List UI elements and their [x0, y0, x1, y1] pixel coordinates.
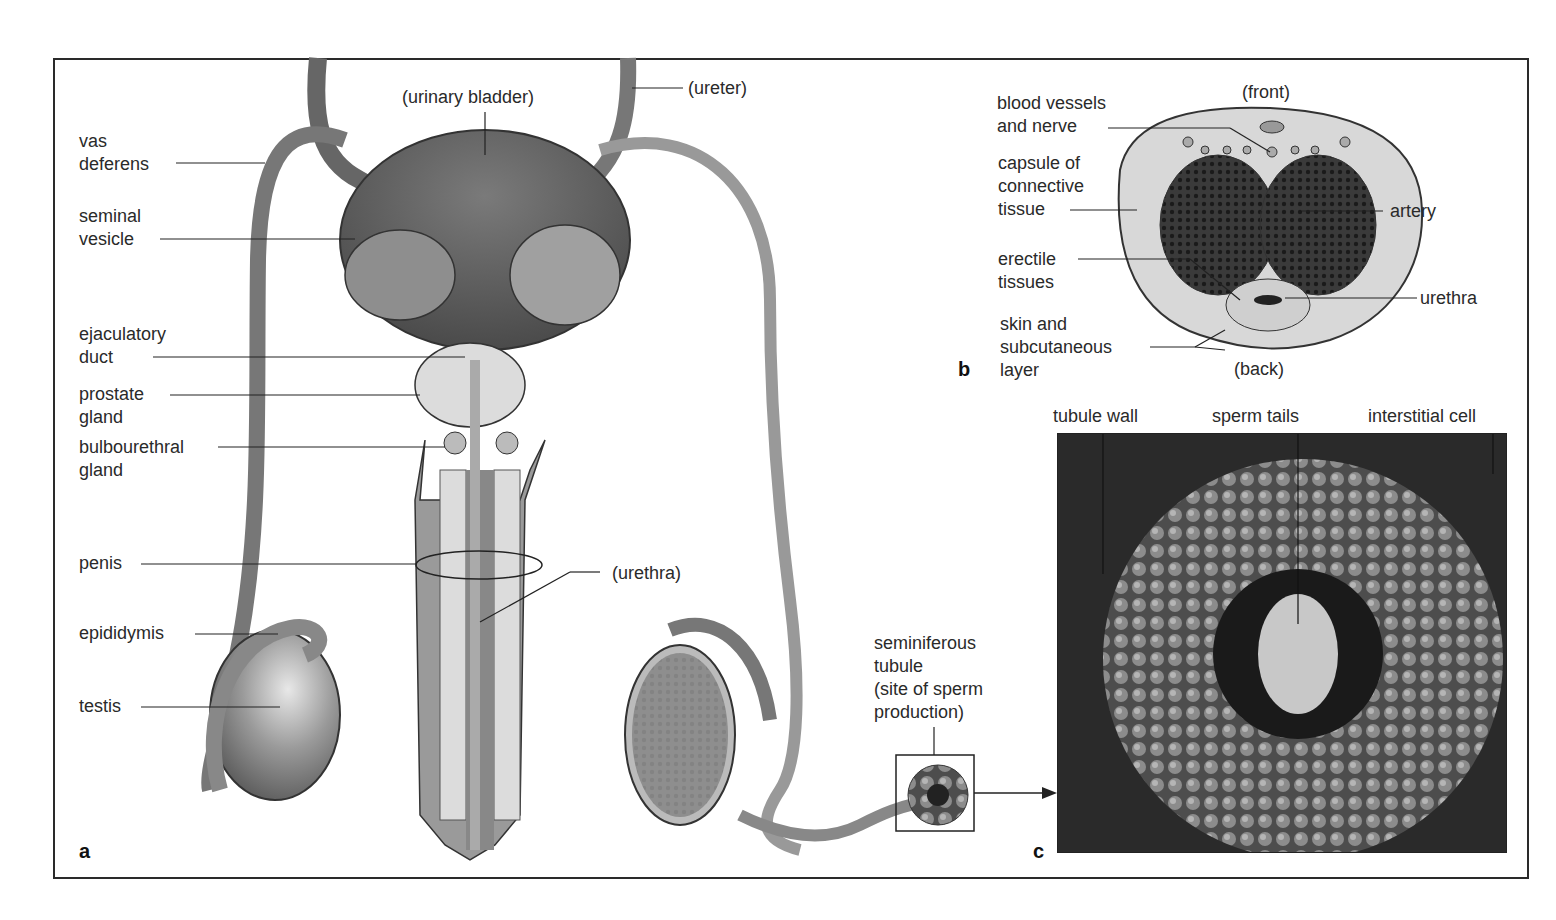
label-ejaculatory-duct: ejaculatory duct [79, 323, 166, 369]
label-erectile-tissues: erectile tissues [998, 248, 1056, 294]
panel-letter-b: b [958, 358, 970, 381]
label-seminiferous-tubule: seminiferous tubule (site of sperm produ… [874, 632, 983, 724]
label-front: (front) [1242, 81, 1290, 104]
label-artery: artery [1390, 200, 1436, 223]
label-urethra-a: (urethra) [612, 562, 681, 585]
label-testis: testis [79, 695, 121, 718]
panel-letter-a: a [79, 840, 90, 863]
label-prostate-gland: prostate gland [79, 383, 144, 429]
label-urethra-b: urethra [1420, 287, 1477, 310]
label-capsule: capsule of connective tissue [998, 152, 1084, 221]
seminal-vesicle-left [345, 230, 455, 320]
label-tubule-wall: tubule wall [1053, 405, 1138, 428]
panel-letter-c: c [1033, 840, 1044, 863]
micrograph-seminiferous-tubule [1057, 433, 1507, 853]
label-ureter: (ureter) [688, 77, 747, 100]
label-seminal-vesicle: seminal vesicle [79, 205, 141, 251]
label-sperm-tails: sperm tails [1212, 405, 1299, 428]
label-back: (back) [1234, 358, 1284, 381]
testis-left [210, 630, 340, 800]
label-urinary-bladder: (urinary bladder) [402, 86, 534, 109]
arrow-head-icon [1042, 787, 1057, 799]
label-vas-deferens: vas deferens [79, 130, 149, 176]
label-penis: penis [79, 552, 122, 575]
tubule-lumen [927, 784, 949, 806]
label-skin-subcutaneous: skin and subcutaneous layer [1000, 313, 1112, 382]
label-bulbourethral-gland: bulbourethral gland [79, 436, 184, 482]
seminal-vesicle-right [510, 225, 620, 325]
micrograph-image [1058, 434, 1507, 853]
label-interstitial-cell: interstitial cell [1368, 405, 1476, 428]
label-blood-vessels: blood vessels and nerve [997, 92, 1106, 138]
penis-cross-section [1119, 108, 1422, 349]
bulbourethral-gland-right [496, 432, 518, 454]
penis-shaft [415, 360, 545, 860]
lobules [632, 653, 728, 817]
bulbourethral-gland-left [444, 432, 466, 454]
label-epididymis: epididymis [79, 622, 164, 645]
